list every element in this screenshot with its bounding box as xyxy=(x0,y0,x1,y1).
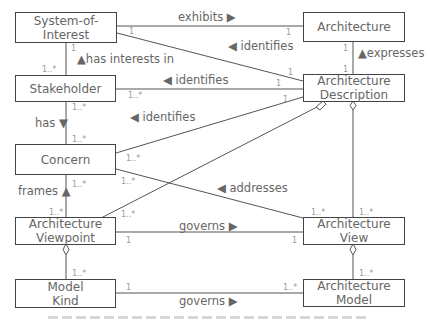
class-system-of-interest: System-of- Interest xyxy=(15,12,117,43)
assoc-label-exhibits: exhibits ▶ xyxy=(178,11,236,24)
assoc-label-identifies-stakeholder: ◀ identifies xyxy=(163,74,228,87)
mult-stake-ad: 1..* xyxy=(128,91,142,100)
assoc-label-addresses: ◀ addresses xyxy=(217,182,288,195)
mult-soi-exhibits: 1 xyxy=(129,27,134,36)
mult-am-view: 1..* xyxy=(359,269,373,278)
mult-stake-soi: 1..* xyxy=(42,65,56,74)
mult-mk-governs: 1 xyxy=(126,283,131,292)
assoc-label-identifies-soi: ◀ identifies xyxy=(228,40,293,53)
mult-am-governs: 1..* xyxy=(283,283,297,292)
class-architecture-viewpoint: Architecture Viewpoint xyxy=(15,217,116,245)
aggregation-diamond-viewpoint-modelkind xyxy=(63,244,69,255)
mult-arch-exhibits: 1 xyxy=(286,28,291,37)
mult-ad-expr: 1 xyxy=(343,65,348,74)
mult-view-addr: 1..* xyxy=(311,208,325,217)
mult-concern-ad: 1..* xyxy=(126,154,140,163)
assoc-label-frames: frames ▲ xyxy=(18,185,71,198)
mult-concern-addr: 1..* xyxy=(121,177,135,186)
class-architecture-view: Architecture View xyxy=(303,217,405,245)
aggregation-diamond-view-model xyxy=(350,244,356,255)
aggregation-diamond-ad-viewpoint xyxy=(316,101,326,110)
mult-concern-has: 1..* xyxy=(72,135,86,144)
figure-caption-truncated xyxy=(48,312,368,321)
assoc-label-expresses: ▲expresses xyxy=(358,47,424,60)
mult-soi-stake: 1 xyxy=(71,44,76,53)
mult-view-ad: 1..* xyxy=(359,208,373,217)
mult-view-governs: 1 xyxy=(292,236,297,245)
assoc-label-governs-view: governs ▶ xyxy=(179,220,238,233)
mult-ad-soi: 1 xyxy=(288,68,293,77)
class-architecture-description: Architecture Description xyxy=(303,74,405,102)
mult-vp-ad: 1..* xyxy=(121,210,135,219)
assoc-label-governs-model: governs ▶ xyxy=(179,295,238,308)
class-stakeholder: Stakeholder xyxy=(15,75,116,102)
aggregation-diamond-ad-view xyxy=(350,101,356,110)
mult-ad-stake: 1 xyxy=(276,79,281,88)
class-concern: Concern xyxy=(15,144,116,175)
mult-arch-expr: 1 xyxy=(343,44,348,53)
mult-stake-has: 1..* xyxy=(72,103,86,112)
mult-vp-governs: 1 xyxy=(126,236,131,245)
mult-ad-concern: 1 xyxy=(283,95,288,104)
assoc-label-has: has ▼ xyxy=(35,117,68,130)
mult-vp-frames: 1..* xyxy=(49,208,63,217)
assoc-label-has-interests-in: ▲has interests in xyxy=(77,53,174,66)
mult-mk-vp: 1..* xyxy=(72,269,86,278)
class-model-kind: Model Kind xyxy=(15,279,116,308)
assoc-label-identifies-concern: ◀ identifies xyxy=(130,111,195,124)
class-architecture: Architecture xyxy=(303,12,405,42)
class-architecture-model: Architecture Model xyxy=(303,279,405,307)
mult-concern-frames: 1..* xyxy=(72,180,86,189)
